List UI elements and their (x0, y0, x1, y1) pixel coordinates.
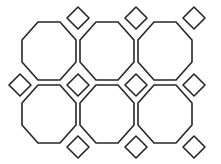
truncated-square-tiling-diagram (0, 0, 221, 164)
tiling-figure (0, 0, 221, 164)
figure-background (0, 0, 221, 164)
